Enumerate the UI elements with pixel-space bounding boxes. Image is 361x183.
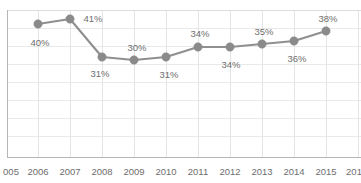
data-label-2009: 30%	[127, 42, 147, 53]
data-label-2012: 34%	[221, 59, 241, 70]
data-point-2010[interactable]	[162, 53, 170, 61]
x-tick-label-2012: 2012	[219, 166, 240, 177]
data-point-2007[interactable]	[66, 15, 74, 23]
data-label-2006: 40%	[30, 37, 50, 48]
data-point-2013[interactable]	[258, 40, 266, 48]
line-chart: 40% 41% 31% 30% 31% 34% 34% 35% 36% 38% …	[0, 0, 361, 183]
chart-canvas: 40% 41% 31% 30% 31% 34% 34% 35% 36% 38% …	[0, 0, 361, 183]
x-tick-label-2015: 2015	[315, 166, 336, 177]
data-point-2015[interactable]	[322, 27, 330, 35]
x-tick-label-2013: 2013	[251, 166, 272, 177]
x-tick-label-2009: 2009	[123, 166, 144, 177]
x-tick-label-2016: 201	[346, 166, 361, 177]
x-tick-label-2006: 2006	[27, 166, 48, 177]
data-label-2010: 31%	[159, 69, 179, 80]
horizontal-gridlines	[7, 28, 361, 136]
data-point-2006[interactable]	[34, 20, 42, 28]
x-tick-label-2014: 2014	[283, 166, 304, 177]
x-tick-label-2011: 2011	[188, 166, 208, 177]
data-point-2008[interactable]	[98, 53, 106, 61]
data-point-2009[interactable]	[130, 56, 138, 64]
data-label-2008: 31%	[90, 68, 110, 79]
x-tick-label-2005: 005	[3, 166, 19, 177]
data-label-2014: 36%	[287, 53, 307, 64]
x-tick-label-2010: 2010	[155, 166, 176, 177]
x-tick-label-2008: 2008	[91, 166, 112, 177]
x-tick-label-2007: 2007	[59, 166, 80, 177]
data-label-2015: 38%	[318, 13, 338, 24]
series-line	[38, 19, 326, 60]
data-point-2011[interactable]	[194, 43, 202, 51]
data-point-2014[interactable]	[290, 37, 298, 45]
x-axis-tick-labels: 005 2006 2007 2008 2009 2010 2011 2012 2…	[3, 166, 361, 177]
data-point-2012[interactable]	[226, 43, 234, 51]
data-label-2007: 41%	[83, 13, 103, 24]
series-markers	[34, 15, 330, 64]
data-label-2011: 34%	[190, 28, 210, 39]
data-label-2013: 35%	[254, 26, 274, 37]
